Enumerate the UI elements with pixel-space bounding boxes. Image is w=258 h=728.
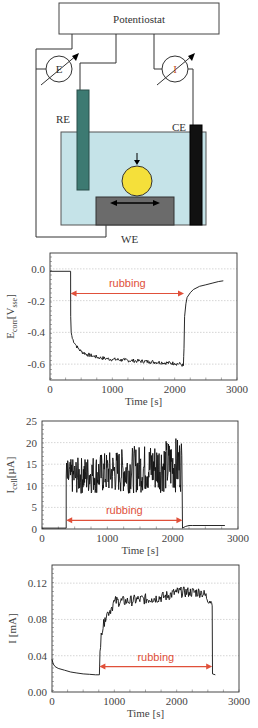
x-tick-label: 2000 (164, 383, 187, 395)
reference-electrode (77, 90, 89, 190)
y-tick-label: 15 (26, 458, 38, 470)
e-meter-label: E (56, 63, 63, 75)
y-tick-label: 0.12 (28, 577, 47, 589)
i-meter-left-wire (154, 34, 162, 69)
plot-frame (52, 565, 239, 692)
working-electrode-sample (96, 197, 174, 225)
y-tick-label: 25 (26, 415, 38, 427)
we-label: WE (121, 233, 138, 245)
y-axis-label: I [mA] (6, 613, 18, 643)
icell-chart: 05101520250100020003000Time [s]Icell[µA]… (4, 415, 250, 556)
arrow-left-icon (71, 290, 77, 296)
arrow-right-icon (206, 664, 212, 670)
x-axis-label: Time [s] (127, 707, 164, 719)
x-tick-label: 2000 (166, 695, 189, 707)
counterbody-ball (122, 166, 152, 196)
x-tick-label: 0 (39, 532, 45, 544)
y-axis-label: Icell[µA] (4, 457, 19, 494)
x-tick-label: 1000 (96, 532, 119, 544)
y-tick-label: 10 (26, 480, 38, 492)
ecorr-chart: 0.0-0.2-0.4-0.60100020003000Time [s]Ecor… (4, 253, 249, 407)
plot-frame (50, 253, 237, 380)
figure-canvas: Potentiostat E I RE CE WE 0.0-0.2-0.4-0.… (0, 0, 258, 728)
rubbing-label: rubbing (137, 651, 174, 663)
x-tick-label: 0 (47, 383, 53, 395)
y-tick-label: 0.08 (28, 613, 48, 625)
y-tick-label: 0 (32, 523, 38, 535)
x-tick-label: 1000 (103, 695, 126, 707)
potentiostat-label: Potentiostat (113, 13, 165, 25)
y-tick-label: -0.4 (28, 326, 46, 338)
arrow-right-icon (176, 517, 182, 523)
x-tick-label: 2000 (162, 532, 185, 544)
x-tick-label: 1000 (101, 383, 124, 395)
x-axis-label: Time [s] (121, 544, 158, 556)
arrow-left-icon (99, 664, 105, 670)
x-tick-label: 3000 (226, 383, 249, 395)
y-tick-label: 20 (26, 437, 38, 449)
y-tick-label: 0.0 (31, 263, 45, 275)
x-tick-label: 0 (49, 695, 55, 707)
i-meter-label: I (173, 63, 177, 75)
re-label: RE (56, 113, 70, 125)
re-wire (80, 34, 116, 90)
arrow-left-icon (66, 517, 72, 523)
y-tick-label: -0.2 (28, 295, 45, 307)
x-tick-label: 3000 (227, 532, 250, 544)
y-tick-label: -0.6 (28, 358, 46, 370)
rubbing-label: rubbing (106, 504, 143, 516)
y-tick-label: 0.00 (28, 686, 48, 698)
rubbing-label: rubbing (109, 277, 146, 289)
ce-label: CE (172, 121, 186, 133)
y-tick-label: 0.04 (28, 650, 48, 662)
data-series-line (52, 587, 215, 675)
y-tick-label: 5 (32, 501, 38, 513)
arrow-right-icon (178, 290, 184, 296)
x-tick-label: 3000 (228, 695, 251, 707)
x-axis-label: Time [s] (125, 395, 162, 407)
y-axis-label: Ecorr[Vsse] (4, 294, 19, 339)
current-chart: 0.000.040.080.120100020003000Time [s]I [… (6, 565, 251, 719)
ce-wire (188, 69, 193, 125)
counter-electrode (190, 125, 202, 225)
